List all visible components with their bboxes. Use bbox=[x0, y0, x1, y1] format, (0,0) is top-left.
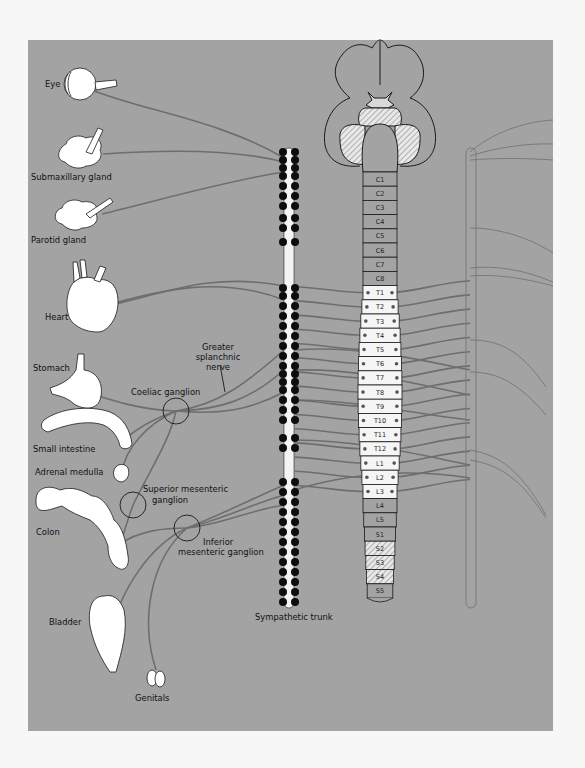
ganglion-bulb-right bbox=[291, 396, 299, 404]
ganglion-bulb-left bbox=[279, 416, 287, 424]
ganglion-bulb-right bbox=[291, 434, 299, 442]
ganglion-bulb-right bbox=[291, 182, 299, 190]
cord-segment-c1: C1 bbox=[363, 172, 397, 186]
ganglion-bulb-left bbox=[279, 528, 287, 536]
ganglion-bulb-right bbox=[291, 598, 299, 606]
ganglion-bulb-left bbox=[279, 202, 287, 210]
cord-segment-t5: T5 bbox=[359, 342, 401, 356]
svg-text:T7: T7 bbox=[375, 374, 384, 382]
label-superior-mesenteric-2: ganglion bbox=[152, 495, 188, 505]
ganglion-bulb-right bbox=[291, 238, 299, 246]
label-submaxillary-gland: Submaxillary gland bbox=[31, 172, 112, 182]
ganglion-bulb-right bbox=[291, 292, 299, 300]
nerve-fibers bbox=[80, 90, 470, 670]
ganglion-bulb-left bbox=[279, 518, 287, 526]
ganglion-bulb-left bbox=[279, 192, 287, 200]
ganglion-bulb-right bbox=[291, 164, 299, 172]
svg-text:L1: L1 bbox=[376, 460, 384, 468]
ganglion-bulb-right bbox=[291, 332, 299, 340]
ganglion-bulb-left bbox=[279, 386, 287, 394]
ganglion-bulb-right bbox=[291, 518, 299, 526]
ganglion-bulb-right bbox=[291, 478, 299, 486]
cord-segment-c7: C7 bbox=[363, 257, 397, 271]
label-eye: Eye bbox=[45, 79, 60, 89]
svg-text:C1: C1 bbox=[376, 176, 385, 184]
svg-text:S4: S4 bbox=[376, 573, 384, 581]
ganglion-bulb-left bbox=[279, 302, 287, 310]
sympathetic-nervous-system-diagram: C1C2C3C4C5C6C7C8T1T2T3T4T5T6T7T8T9T10T11… bbox=[0, 0, 585, 768]
svg-text:C8: C8 bbox=[376, 275, 385, 283]
label-bladder: Bladder bbox=[49, 617, 81, 627]
ganglion-bulb-right bbox=[291, 202, 299, 210]
ganglion-bulb-right bbox=[291, 172, 299, 180]
svg-text:T11: T11 bbox=[373, 431, 386, 439]
svg-text:C4: C4 bbox=[376, 218, 385, 226]
svg-text:T9: T9 bbox=[375, 403, 384, 411]
cord-segment-c3: C3 bbox=[363, 200, 397, 214]
ganglion-bulb-right bbox=[291, 322, 299, 330]
ganglion-bulb-left bbox=[279, 508, 287, 516]
genitals-organ bbox=[147, 670, 165, 687]
svg-text:T1: T1 bbox=[375, 289, 384, 297]
cord-segment-t12: T12 bbox=[360, 442, 400, 456]
ganglion-bulb-left bbox=[279, 588, 287, 596]
label-greater-splanchnic-1: Greater bbox=[202, 342, 234, 352]
label-superior-mesenteric-1: Superior mesenteric bbox=[143, 484, 228, 494]
label-greater-splanchnic-3: nerve bbox=[206, 362, 230, 372]
svg-text:T10: T10 bbox=[373, 417, 386, 425]
cord-segment-c4: C4 bbox=[363, 215, 397, 229]
ganglion-bulb-left bbox=[279, 362, 287, 370]
sympathetic-trunk bbox=[279, 148, 299, 608]
ganglion-bulb-right bbox=[291, 148, 299, 156]
ganglion-bulb-left bbox=[279, 488, 287, 496]
ganglion-bulb-right bbox=[291, 568, 299, 576]
ganglion-bulb-right bbox=[291, 406, 299, 414]
svg-text:C5: C5 bbox=[376, 232, 385, 240]
ganglion-bulb-left bbox=[279, 164, 287, 172]
adrenal-medulla-organ bbox=[113, 464, 128, 482]
ganglion-bulb-left bbox=[279, 238, 287, 246]
ganglion-bulb-left bbox=[279, 406, 287, 414]
ganglion-bulb-right bbox=[291, 214, 299, 222]
cord-segment-c5: C5 bbox=[363, 229, 397, 243]
svg-text:C2: C2 bbox=[376, 190, 385, 198]
ganglion-bulb-left bbox=[279, 284, 287, 292]
label-colon: Colon bbox=[36, 527, 60, 537]
cord-segment-s5: S5 bbox=[367, 584, 393, 598]
ganglion-bulb-left bbox=[279, 214, 287, 222]
ganglion-bulb-right bbox=[291, 302, 299, 310]
label-coeliac-ganglion: Coeliac ganglion bbox=[131, 387, 200, 397]
ganglion-bulb-left bbox=[279, 568, 287, 576]
ganglion-bulb-left bbox=[279, 598, 287, 606]
cord-segment-l4: L4 bbox=[363, 499, 397, 513]
ganglion-bulb-left bbox=[279, 224, 287, 232]
cord-segment-t9: T9 bbox=[358, 399, 402, 413]
ganglion-bulb-right bbox=[291, 386, 299, 394]
svg-text:L4: L4 bbox=[376, 502, 384, 510]
label-greater-splanchnic-2: splanchnic bbox=[196, 352, 241, 362]
ganglion-bulb-right bbox=[291, 284, 299, 292]
cord-segment-t1: T1 bbox=[363, 286, 397, 300]
cord-segment-c6: C6 bbox=[363, 243, 397, 257]
cord-segment-t7: T7 bbox=[358, 371, 402, 385]
cord-segment-s1: S1 bbox=[364, 527, 395, 541]
cord-segment-l5: L5 bbox=[364, 513, 397, 527]
cord-segment-t8: T8 bbox=[358, 385, 402, 399]
cord-segment-t6: T6 bbox=[358, 357, 401, 371]
svg-text:S5: S5 bbox=[376, 587, 384, 595]
svg-text:T5: T5 bbox=[375, 346, 384, 354]
spinal-cord: C1C2C3C4C5C6C7C8T1T2T3T4T5T6T7T8T9T10T11… bbox=[358, 172, 402, 602]
cord-segment-s4: S4 bbox=[367, 570, 394, 584]
ganglion-bulb-right bbox=[291, 578, 299, 586]
svg-text:C3: C3 bbox=[376, 204, 385, 212]
cord-segment-t10: T10 bbox=[358, 413, 401, 427]
ganglion-bulb-left bbox=[279, 478, 287, 486]
organs bbox=[36, 68, 165, 687]
brain bbox=[324, 40, 435, 172]
ganglion-bulb-right bbox=[291, 378, 299, 386]
svg-text:S2: S2 bbox=[376, 545, 384, 553]
ganglion-bulb-left bbox=[279, 182, 287, 190]
ganglion-bulb-right bbox=[291, 370, 299, 378]
ganglion-bulb-right bbox=[291, 508, 299, 516]
ganglion-bulb-left bbox=[279, 578, 287, 586]
